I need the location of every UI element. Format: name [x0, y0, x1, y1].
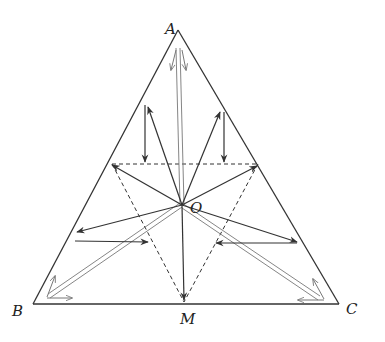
vertex-arrows: [47, 50, 324, 300]
double-lines: [48, 48, 320, 300]
label-a: A: [163, 20, 176, 38]
triangle-abc: [33, 30, 339, 304]
translated-vectors: [75, 105, 297, 243]
label-m: M: [179, 310, 196, 328]
label-c: C: [346, 300, 358, 318]
dashed-medial-triangle: [112, 164, 258, 302]
vectors-from-o: [77, 107, 297, 300]
geometry-diagram: A B C M O: [0, 0, 385, 342]
label-b: B: [11, 302, 23, 320]
label-o: O: [190, 199, 202, 217]
